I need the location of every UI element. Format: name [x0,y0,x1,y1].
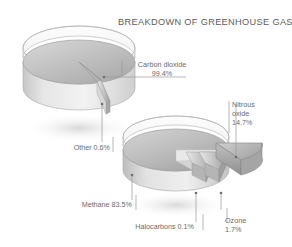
label-nitrous-oxide-name-1: Nitrous [232,100,288,109]
label-ozone-name: Ozone [225,216,273,225]
label-halocarbons: Halocarbons 0.1% [112,222,194,231]
label-nitrous-oxide-value: 14.7% [232,118,288,127]
label-carbon-dioxide-name: Carbon dioxide [126,60,198,69]
label-nitrous-oxide: Nitrous oxide 14.7% [232,100,288,128]
label-nitrous-oxide-name-2: oxide [232,109,288,118]
label-ozone-value: 1.7% [225,225,273,234]
chart-title: BREAKDOWN OF GREENHOUSE GASES [118,17,290,27]
label-carbon-dioxide: Carbon dioxide 99.4% [126,60,198,78]
label-ozone: Ozone 1.7% [225,216,273,234]
top-pie-group [23,26,135,143]
bottom-pie-group [123,116,263,218]
label-methane: Methane 83.5% [54,200,132,209]
infographic-canvas: BREAKDOWN OF GREENHOUSE GASES Carbon dio… [0,0,292,247]
label-other: Other 0.6% [38,143,110,152]
label-carbon-dioxide-value: 99.4% [126,69,198,78]
